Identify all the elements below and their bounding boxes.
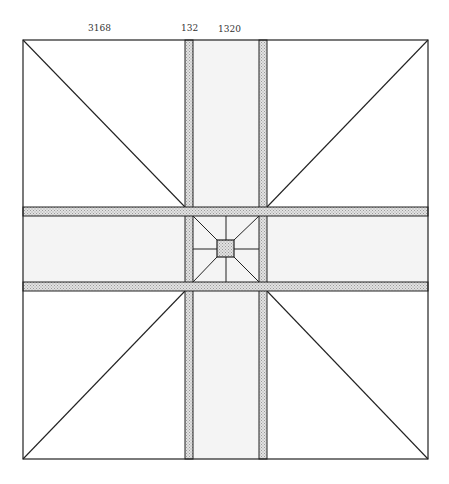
horizontal-strip-top [23, 207, 428, 216]
center-square [217, 240, 234, 257]
grid-diagram [0, 0, 449, 484]
vertical-strip-right [259, 40, 267, 459]
vertical-strip-left [185, 40, 193, 459]
horizontal-strip-bottom [23, 282, 428, 291]
